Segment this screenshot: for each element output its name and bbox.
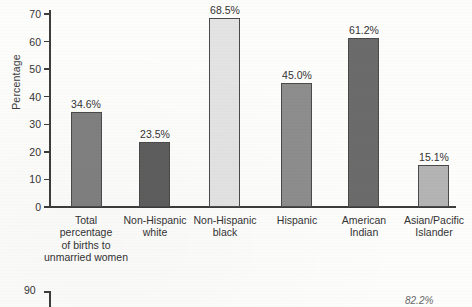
bar-5 [348, 38, 379, 207]
bar-value-label-6: 15.1% [404, 151, 464, 163]
y-axis-tick-0 [44, 206, 49, 208]
y-axis-tick-label-50: 50 [0, 63, 41, 75]
second-chart-y-axis-line [49, 291, 51, 307]
y-axis-tick-10 [44, 179, 49, 181]
bar-1 [71, 112, 102, 207]
bar-3 [209, 18, 240, 207]
y-axis-line [49, 10, 51, 208]
y-axis-tick-label-40: 40 [0, 91, 41, 103]
bar-value-label-3: 68.5% [195, 4, 255, 16]
bar-6 [418, 165, 449, 207]
y-axis-tick-30 [44, 124, 49, 126]
y-axis-tick-20 [44, 151, 49, 153]
y-axis-tick-40 [44, 96, 49, 98]
y-axis-tick-70 [44, 13, 49, 15]
y-axis-tick-label-60: 60 [0, 36, 41, 48]
y-axis-tick-label-10: 10 [0, 173, 41, 185]
second-chart-partial-value-label: 82.2% [405, 295, 433, 306]
y-axis-tick-label-20: 20 [0, 146, 41, 158]
bar-chart-unmarried-births: Percentage 010203040506070 34.6%23.5%68.… [0, 0, 472, 272]
bar-value-label-1: 34.6% [56, 98, 116, 110]
y-axis-tick-60 [44, 41, 49, 43]
bar-value-label-5: 61.2% [334, 24, 394, 36]
second-chart-ytick-label: 90 [24, 284, 36, 296]
bar-2 [139, 142, 170, 207]
category-label-6: Asian/Pacific Islander [382, 214, 472, 239]
bar-value-label-4: 45.0% [267, 69, 327, 81]
bar-4 [281, 83, 312, 207]
y-axis-tick-label-70: 70 [0, 8, 41, 20]
second-chart-cropped: 90 82.2% [0, 272, 472, 307]
y-axis-title: Percentage [10, 36, 22, 128]
y-axis-tick-label-30: 30 [0, 118, 41, 130]
x-axis-line [49, 206, 456, 208]
y-axis-tick-label-0: 0 [0, 201, 41, 213]
y-axis-tick-50 [44, 68, 49, 70]
bar-value-label-2: 23.5% [125, 128, 185, 140]
